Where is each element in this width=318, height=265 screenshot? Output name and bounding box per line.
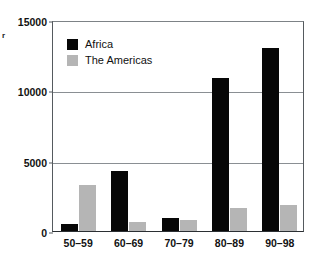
bar [111, 171, 128, 231]
y-axis-tick-mark [49, 233, 53, 234]
y-axis-label-fragment: r [2, 32, 9, 40]
x-axis-tick-label: 80–89 [215, 237, 244, 249]
bar [129, 222, 146, 231]
legend-item: The Americas [67, 54, 152, 67]
y-axis-tick-label: 10000 [18, 86, 47, 98]
x-axis-tick-label: 60–69 [114, 237, 143, 249]
x-axis-tick-label: 50–59 [64, 237, 93, 249]
x-axis-tick-label: 90–98 [265, 237, 294, 249]
bar [162, 218, 179, 232]
y-axis-tick-label: 0 [41, 227, 47, 239]
legend-swatch-icon [67, 55, 78, 66]
chart-legend: AfricaThe Americas [67, 38, 152, 67]
bar [230, 208, 247, 231]
y-axis-tick-label: 15000 [18, 16, 47, 28]
x-axis-tick-label: 70–79 [164, 237, 193, 249]
legend-label: Africa [85, 39, 113, 50]
legend-label: The Americas [85, 55, 152, 66]
bar [280, 205, 297, 231]
bar-chart-figure: r 050001000015000 50–5960–6970–7980–8990… [0, 0, 318, 265]
bar [262, 48, 279, 231]
bar [79, 185, 96, 231]
legend-swatch-icon [67, 39, 78, 50]
bar [212, 78, 229, 231]
y-axis-tick-label: 5000 [24, 157, 47, 169]
bar [180, 220, 197, 231]
bar [61, 224, 78, 231]
legend-item: Africa [67, 38, 152, 51]
